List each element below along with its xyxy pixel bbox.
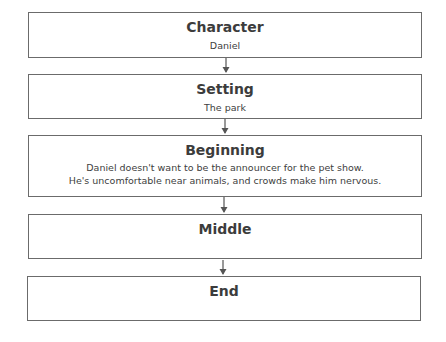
down-arrow-icon [220,119,230,135]
character-box: Character Daniel [28,12,422,58]
beginning-text-line-1: Daniel doesn't want to be the announcer … [29,161,421,174]
down-arrow-icon [221,58,231,74]
setting-box: Setting The park [28,74,422,119]
down-arrow-icon [218,260,228,276]
beginning-title: Beginning [29,142,421,159]
setting-title: Setting [29,81,421,98]
setting-text: The park [29,101,421,114]
character-text: Daniel [29,39,421,52]
end-title: End [28,283,420,300]
middle-box: Middle [28,214,422,259]
beginning-text-line-2: He's uncomfortable near animals, and cro… [29,174,421,187]
middle-title: Middle [29,221,421,238]
character-title: Character [29,19,421,36]
beginning-box: Beginning Daniel doesn't want to be the … [28,135,422,197]
down-arrow-icon [219,197,229,214]
end-box: End [27,276,421,321]
